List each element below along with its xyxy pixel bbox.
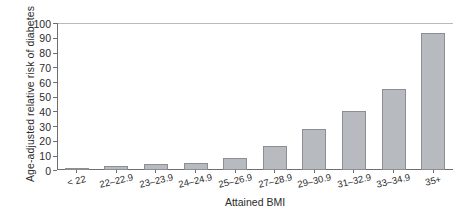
bar-slot	[374, 23, 414, 170]
bar	[302, 129, 326, 170]
x-axis-tick-mark	[433, 170, 434, 173]
bar	[263, 146, 287, 170]
bar-series	[57, 23, 453, 170]
bar-slot	[334, 23, 374, 170]
x-axis-label: 31–32.9	[336, 171, 372, 189]
x-axis-label: 24–24.9	[178, 171, 214, 189]
x-axis-tick-mark	[116, 170, 117, 173]
x-axis-tick-mark	[155, 170, 156, 173]
bar	[382, 89, 406, 170]
bar-slot	[57, 23, 97, 170]
x-axis-tick-mark	[353, 170, 354, 173]
y-axis-tick: 0	[29, 161, 57, 179]
y-axis-tick-label: 0	[29, 165, 51, 177]
bar-slot	[97, 23, 137, 170]
x-axis-labels: < 2222–22.923–23.924–24.925–26.927–28.92…	[57, 175, 453, 186]
x-axis-label: 27–28.9	[257, 171, 293, 189]
x-axis-label: 29–30.9	[296, 171, 332, 189]
x-axis-label-slot: 33–34.9	[374, 175, 414, 186]
plot-area: 1009080706050403020100	[57, 23, 453, 170]
x-axis-tick-mark	[393, 170, 394, 173]
x-axis-tick	[413, 170, 453, 174]
x-axis-label-slot: 25–26.9	[215, 175, 255, 186]
x-axis-tick-mark	[195, 170, 196, 173]
x-axis-ticks	[57, 170, 453, 174]
x-axis-tick-mark	[235, 170, 236, 173]
x-axis-label-slot: 35+	[413, 175, 453, 186]
x-axis-tick-mark	[76, 170, 77, 173]
bar-slot	[215, 23, 255, 170]
bar-slot	[413, 23, 453, 170]
bar-slot	[255, 23, 295, 170]
bar-slot	[295, 23, 335, 170]
x-axis-label-slot: 27–28.9	[255, 175, 295, 186]
x-axis-label-slot: < 22	[57, 175, 97, 186]
bar	[184, 163, 208, 170]
x-axis-label: 35+	[424, 173, 442, 187]
bar-slot	[176, 23, 216, 170]
x-axis-label-slot: 29–30.9	[295, 175, 335, 186]
bar-chart: Age-adjusted relative risk of diabetes 1…	[0, 0, 462, 216]
x-axis-label: 25–26.9	[217, 171, 253, 189]
x-axis-label-slot: 24–24.9	[176, 175, 216, 186]
x-axis-label: 23–23.9	[138, 171, 174, 189]
bar	[342, 111, 366, 170]
x-axis-tick	[57, 170, 97, 174]
x-axis-label: 22–22.9	[98, 171, 134, 189]
x-axis-label: < 22	[66, 173, 87, 188]
bar	[421, 33, 445, 170]
x-axis-label-slot: 22–22.9	[97, 175, 137, 186]
x-axis-title: Attained BMI	[57, 196, 453, 208]
bar	[223, 158, 247, 170]
bar-slot	[136, 23, 176, 170]
x-axis-label: 33–34.9	[376, 171, 412, 189]
x-axis-label-slot: 23–23.9	[136, 175, 176, 186]
x-axis-tick-mark	[274, 170, 275, 173]
x-axis-label-slot: 31–32.9	[334, 175, 374, 186]
x-axis-tick-mark	[314, 170, 315, 173]
